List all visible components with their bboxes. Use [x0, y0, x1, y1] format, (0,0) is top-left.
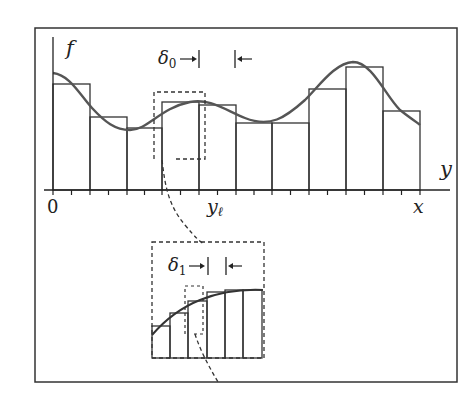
histogram-bar [188, 301, 207, 358]
y-axis-label-f: f [64, 36, 77, 60]
inset-histogram-bars [152, 290, 262, 358]
figure-frame [35, 28, 457, 382]
histogram-bar [162, 102, 199, 190]
y-ell-label: yℓ [206, 195, 224, 219]
histogram-bar [236, 123, 272, 190]
histogram-bar [127, 128, 162, 190]
delta1-label: δ1 [168, 254, 186, 278]
arrowhead-icon [228, 263, 233, 269]
x-axis-ticks [53, 190, 420, 195]
x-end-label: x [413, 195, 424, 217]
histogram-bar [272, 123, 309, 190]
x-axis-label-y: y [439, 157, 453, 181]
main-histogram-bars [53, 67, 420, 190]
histogram-bar [243, 290, 262, 358]
arrowhead-icon [237, 56, 242, 62]
riemann-sum-figure: f y 0 yℓ x δ0 δ1 [0, 0, 475, 408]
arrowhead-icon [192, 56, 197, 62]
histogram-bar [346, 67, 383, 190]
delta0-label: δ0 [158, 47, 176, 71]
arrowhead-icon [200, 263, 205, 269]
histogram-bar [225, 290, 243, 358]
histogram-bar [309, 89, 346, 190]
zoom-connector-line [162, 160, 204, 244]
histogram-bar [383, 111, 420, 190]
histogram-bar [207, 292, 225, 358]
origin-label: 0 [47, 196, 58, 217]
